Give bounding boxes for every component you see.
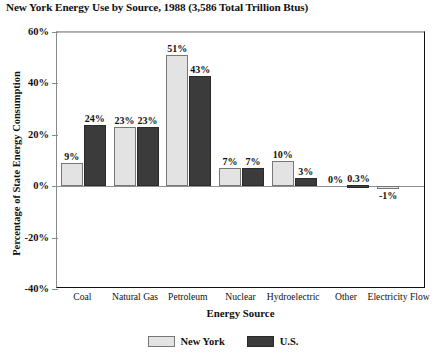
legend-item-us[interactable]: U.S. [247, 336, 299, 347]
bar-electricity-flow-ny [377, 186, 399, 189]
x-axis-tick-labels: CoalNatural GasPetroleumNuclearHydroelec… [56, 291, 425, 307]
x-tick-label-electricity-flow: Electricity Flow [368, 291, 430, 302]
y-tick-label: 20% [28, 128, 49, 139]
y-tick-label: 40% [28, 77, 49, 88]
chart-title: New York Energy Use by Source, 1988 (3,5… [6, 1, 442, 13]
plot-area: 9%24%23%23%51%43%7%7%10%3%0%0.3%-1% [56, 31, 425, 288]
bar-natural-gas-ny [114, 127, 136, 186]
x-tick-label-other: Other [335, 291, 357, 302]
x-tick-label-hydroelectric: Hydroelectric [267, 291, 320, 302]
y-tick-label: 0% [33, 180, 49, 191]
tick-mark [52, 289, 58, 290]
legend-item-new-york[interactable]: New York [148, 336, 225, 347]
y-axis-tick-labels: 60%40%20%0%-20%-40% [0, 31, 49, 288]
bars-layer: 9%24%23%23%51%43%7%7%10%3%0%0.3%-1% [57, 32, 424, 287]
legend-label: U.S. [280, 336, 299, 347]
bar-petroleum-us [189, 76, 211, 187]
y-tick-label: -40% [25, 283, 50, 294]
bar-nuclear-us [242, 168, 264, 186]
bar-petroleum-ny [166, 55, 188, 186]
chart-legend: New YorkU.S. [0, 336, 446, 347]
bar-value-label: 10% [266, 149, 300, 160]
y-tick-label: 60% [28, 26, 49, 37]
x-tick-label-natural-gas: Natural Gas [112, 291, 158, 302]
x-tick-label-petroleum: Petroleum [168, 291, 207, 302]
bar-value-label: -1% [371, 190, 405, 201]
energy-use-bar-chart: New York Energy Use by Source, 1988 (3,5… [0, 0, 446, 360]
bar-other-us [347, 185, 369, 187]
x-tick-label-coal: Coal [73, 291, 91, 302]
bar-coal-ny [61, 163, 83, 186]
bar-value-label: 43% [183, 64, 217, 75]
bar-value-label: 23% [131, 115, 165, 126]
bar-coal-us [84, 125, 106, 187]
x-axis-title: Energy Source [56, 307, 425, 319]
bar-natural-gas-us [137, 127, 159, 186]
legend-label: New York [181, 336, 225, 347]
bar-hydroelectric-us [295, 178, 317, 186]
bar-nuclear-ny [219, 168, 241, 186]
x-tick-label-nuclear: Nuclear [225, 291, 255, 302]
legend-swatch [148, 336, 175, 347]
legend-swatch [247, 336, 274, 347]
bar-value-label: 0.3% [341, 173, 375, 184]
bar-value-label: 51% [160, 43, 194, 54]
y-tick-label: -20% [25, 231, 50, 242]
